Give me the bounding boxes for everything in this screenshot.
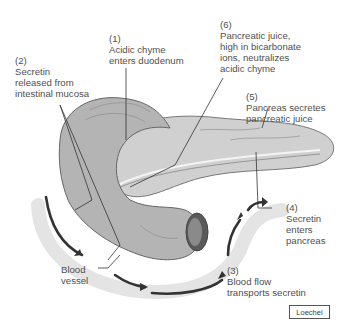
label-step1: (1) Acidic chyme enters duodenum [109,33,184,66]
label-step5: (5) Pancreas secretes pancreatic juice [246,91,325,124]
illustrator-credit: Loechel [289,305,330,319]
label-step2: (2) Secretin released from intestinal mu… [15,55,89,99]
label-step4: (4) Secretin enters pancreas [286,202,325,246]
label-blood-vessel: Blood vessel [61,264,88,286]
label-step6: (6) Pancreatic juice, high in bicarbonat… [220,19,301,74]
label-step3: (3) Blood flow transports secretin [227,265,306,298]
